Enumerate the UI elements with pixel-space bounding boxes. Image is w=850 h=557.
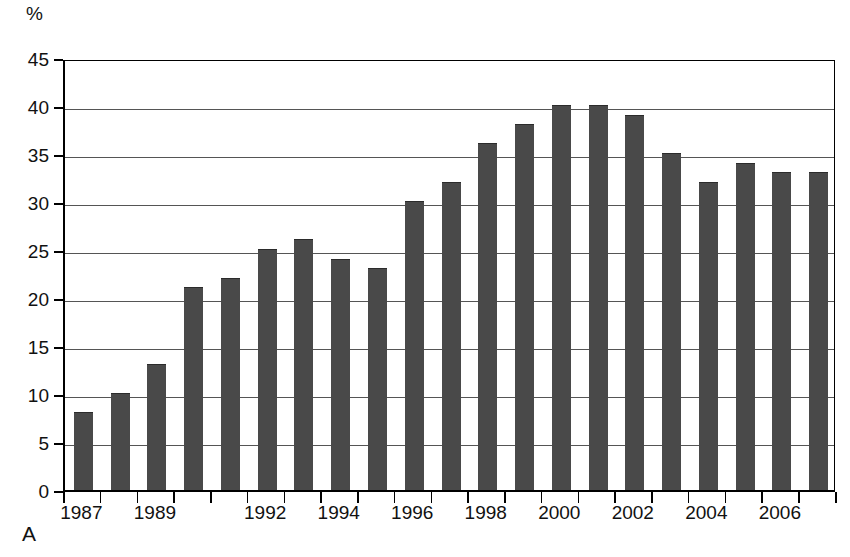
bar-1990 <box>184 287 203 490</box>
x-axis-label-2002: 2002 <box>598 503 668 523</box>
bar-2004 <box>699 182 718 490</box>
y-axis-label-35: 35 <box>5 146 49 165</box>
bar-1987 <box>74 412 93 490</box>
y-axis-label-20: 20 <box>5 290 49 309</box>
bar-1991 <box>221 278 240 490</box>
x-axis-label-2000: 2000 <box>524 503 594 523</box>
bar-1999 <box>515 124 534 490</box>
panel-letter: A <box>22 523 36 544</box>
y-tick-45 <box>54 59 63 61</box>
y-tick-25 <box>54 251 63 253</box>
y-tick-30 <box>54 203 63 205</box>
x-axis-label-2006: 2006 <box>745 503 815 523</box>
y-tick-20 <box>54 299 63 301</box>
bar-2000 <box>552 105 571 490</box>
y-tick-40 <box>54 107 63 109</box>
y-axis-label-30: 30 <box>5 194 49 213</box>
x-tick-21 <box>835 492 837 503</box>
bar-1996 <box>405 201 424 490</box>
x-axis-label-1989: 1989 <box>120 503 190 523</box>
bar-2006 <box>772 172 791 490</box>
bar-1994 <box>331 259 350 490</box>
bar-2003 <box>662 153 681 490</box>
bar-1992 <box>258 249 277 490</box>
y-axis-label-45: 45 <box>5 50 49 69</box>
plot-area <box>63 60 835 492</box>
x-axis-label-1994: 1994 <box>304 503 374 523</box>
bar-1988 <box>111 393 130 490</box>
bar-1993 <box>294 239 313 490</box>
y-tick-15 <box>54 347 63 349</box>
x-axis-label-1998: 1998 <box>451 503 521 523</box>
y-axis-label-5: 5 <box>5 434 49 453</box>
bar-2005 <box>736 163 755 490</box>
y-axis: 051015202530354045 <box>0 0 63 557</box>
bar-1997 <box>442 182 461 490</box>
y-axis-label-0: 0 <box>5 482 49 501</box>
x-axis-label-1996: 1996 <box>377 503 447 523</box>
x-axis-label-1987: 1987 <box>46 503 116 523</box>
y-tick-0 <box>54 491 63 493</box>
y-tick-35 <box>54 155 63 157</box>
bar-1989 <box>147 364 166 490</box>
chart-figure: % 051015202530354045 1987198919921994199… <box>0 0 850 557</box>
y-axis-label-25: 25 <box>5 242 49 261</box>
x-axis-labels: 1987198919921994199619982000200220042006 <box>0 503 850 531</box>
bar-1995 <box>368 268 387 490</box>
bar-2002 <box>625 115 644 490</box>
y-tick-10 <box>54 395 63 397</box>
bar-1998 <box>478 143 497 490</box>
x-axis-label-2004: 2004 <box>671 503 741 523</box>
y-axis-label-40: 40 <box>5 98 49 117</box>
bar-2001 <box>589 105 608 490</box>
bar-series <box>65 61 834 490</box>
bar-2007 <box>809 172 828 490</box>
x-tick-4 <box>210 492 212 503</box>
x-axis-label-1992: 1992 <box>230 503 300 523</box>
y-tick-5 <box>54 443 63 445</box>
y-axis-label-15: 15 <box>5 338 49 357</box>
y-axis-label-10: 10 <box>5 386 49 405</box>
